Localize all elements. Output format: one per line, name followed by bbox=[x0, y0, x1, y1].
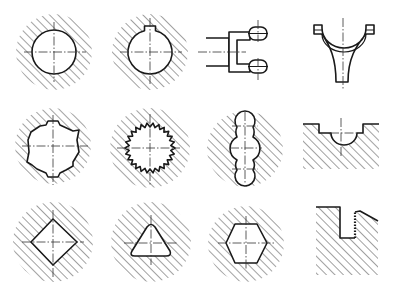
hexagonal-hole-section bbox=[208, 206, 284, 282]
clevis-fork bbox=[198, 20, 268, 80]
serrated-hole-section bbox=[110, 108, 190, 188]
square-hole-section bbox=[13, 202, 93, 282]
slot-with-knurled-edge bbox=[316, 207, 378, 275]
keyed-round-hole-section bbox=[112, 14, 188, 90]
technical-drawing bbox=[0, 0, 394, 295]
shift-fork bbox=[314, 18, 374, 90]
triangular-hole-section bbox=[111, 202, 191, 282]
triple-lobe-slot-section bbox=[207, 111, 283, 187]
splined-hole-section bbox=[15, 108, 91, 185]
round-hole-section bbox=[16, 14, 92, 90]
stepped-groove-with-round-bottom bbox=[303, 118, 379, 169]
